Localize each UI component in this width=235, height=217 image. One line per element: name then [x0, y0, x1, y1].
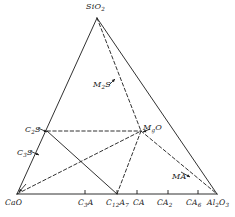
tie-sio2-mgo: [97, 18, 141, 131]
label-c3a: C3A: [78, 199, 93, 207]
label-ca: CA: [133, 199, 145, 207]
label-c2s: C2S: [25, 126, 41, 134]
ternary-phase-diagram: SiO2M2SMgOC2SC3SMACaOC3AC12A7CACA2CA6Al2…: [0, 0, 235, 217]
edge-cao-sio2: [17, 18, 97, 194]
label-cao: CaO: [5, 199, 22, 207]
pointer-arrow-group: [19, 79, 190, 192]
edge-sio2-al2o3: [97, 18, 217, 194]
label-mgo: MgO: [143, 124, 162, 132]
label-al2o3: Al2O3: [207, 199, 229, 207]
tie-mgo-al2o3: [141, 131, 217, 194]
tie-c2s-c12a7: [47, 131, 117, 194]
phase-diagram-canvas: [0, 0, 235, 217]
label-sio2: SiO2: [86, 3, 105, 11]
tie-mgo-c12a7: [117, 131, 141, 194]
solid-line-group: [17, 18, 217, 194]
label-m2s: M2S: [93, 81, 111, 89]
label-ca6: CA6: [186, 199, 201, 207]
label-ca2: CA2: [157, 199, 172, 207]
label-c3s: C3S: [17, 149, 33, 157]
label-ma: MA: [172, 173, 186, 181]
dashed-line-group: [17, 18, 217, 194]
label-c12a7: C12A7: [106, 199, 129, 207]
tie-cao-mgo: [17, 131, 141, 194]
tick-mark-group: [85, 190, 198, 194]
